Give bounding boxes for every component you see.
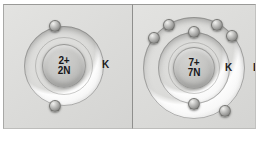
atom-diagram-nitrogen: 7+ 7N K L	[139, 11, 255, 123]
shell-label-k: K	[225, 63, 232, 73]
electron-k-1	[188, 26, 200, 38]
electron-k-2	[188, 98, 200, 110]
atom-panel-helium: 2+ 2N K	[3, 4, 133, 129]
nucleus-neutron-label: 7N	[188, 68, 200, 78]
nucleus-nitrogen: 7+ 7N	[173, 47, 215, 89]
atom-diagram-helium: 2+ 2N K	[18, 16, 110, 116]
electron-l-1	[148, 32, 160, 44]
electron-k-1	[49, 20, 61, 32]
nucleus-helium: 2+ 2N	[42, 44, 86, 88]
electron-l-3	[211, 19, 223, 31]
shell-label-k: K	[102, 60, 109, 70]
atom-panel-nitrogen: 7+ 7N K L	[132, 4, 256, 129]
atomic-structure-figure: 2+ 2N K 7+ 7N	[0, 0, 259, 145]
electron-k-2	[49, 100, 61, 112]
shell-label-l: L	[253, 63, 256, 73]
electron-l-2	[163, 19, 175, 31]
nucleus-neutron-label: 2N	[58, 66, 70, 76]
electron-l-5	[219, 105, 231, 117]
caption-helium	[3, 131, 133, 145]
caption-nitrogen	[132, 131, 256, 145]
electron-l-4	[226, 30, 238, 42]
